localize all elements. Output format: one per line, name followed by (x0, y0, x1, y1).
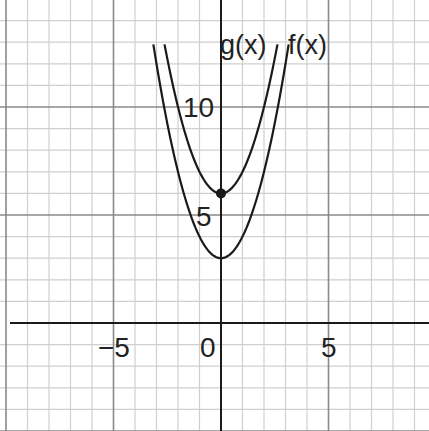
points (216, 188, 226, 198)
g-curve-label: g(x) (220, 32, 267, 59)
x-tick-label-0: 0 (200, 334, 216, 362)
y-tick-label-5: 5 (196, 203, 212, 231)
x-tick-label-neg5: −5 (98, 334, 130, 362)
point-marker (216, 188, 226, 198)
coordinate-plane (0, 0, 429, 431)
x-tick-label-5: 5 (321, 334, 337, 362)
y-tick-label-10: 10 (183, 94, 214, 122)
f-curve-label: f(x) (288, 32, 327, 59)
